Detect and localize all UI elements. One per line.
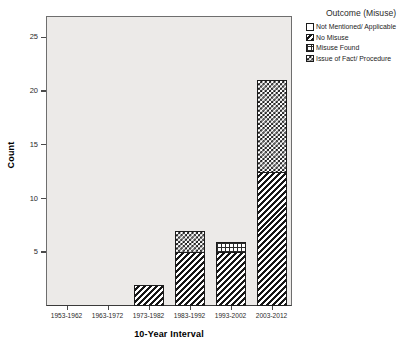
bar-segment[interactable] xyxy=(216,252,246,306)
y-axis-tick: 20 xyxy=(0,86,46,96)
bar-stack[interactable] xyxy=(216,242,246,306)
legend-title: Outcome (Misuse) xyxy=(306,8,416,18)
x-axis-tick-label: 2003-2012 xyxy=(256,312,288,319)
x-axis-tick-label: 1973-1982 xyxy=(133,312,165,319)
y-axis: Count 510152025 xyxy=(0,0,46,306)
bar-segment[interactable] xyxy=(134,285,164,306)
y-axis-tick: 10 xyxy=(0,194,46,204)
legend: Outcome (Misuse) Not Mentioned/ Applicab… xyxy=(306,8,416,64)
x-axis: 1953-19621963-19721973-19821983-19921993… xyxy=(46,306,292,326)
y-axis-tick: 25 xyxy=(0,32,46,42)
y-axis-tick-label: 5 xyxy=(34,247,38,257)
x-axis-tick-mark xyxy=(190,306,191,310)
legend-items: Not Mentioned/ ApplicableNo MisuseMisuse… xyxy=(306,22,416,63)
x-axis-title: 10-Year Interval xyxy=(46,329,292,339)
x-axis-tick-mark xyxy=(272,306,273,310)
legend-item[interactable]: Not Mentioned/ Applicable xyxy=(306,22,416,32)
legend-swatch-grid xyxy=(306,44,314,52)
legend-swatch-diagonal xyxy=(306,34,314,42)
x-axis-tick-label: 1963-1972 xyxy=(92,312,124,319)
bar-segment[interactable] xyxy=(216,242,246,253)
bar-stack[interactable] xyxy=(175,231,205,306)
x-axis-tick-mark xyxy=(108,306,109,310)
legend-item-label: Misuse Found xyxy=(316,43,359,53)
legend-item-label: Not Mentioned/ Applicable xyxy=(316,22,396,32)
y-axis-tick-label: 25 xyxy=(30,32,38,42)
x-axis-tick-mark xyxy=(67,306,68,310)
legend-item[interactable]: Issue of Fact/ Procedure xyxy=(306,54,416,64)
y-axis-tick: 5 xyxy=(0,247,46,257)
y-axis-tick: 15 xyxy=(0,140,46,150)
x-axis-tick-mark xyxy=(231,306,232,310)
bar-segment[interactable] xyxy=(257,80,287,171)
legend-item-label: Issue of Fact/ Procedure xyxy=(316,54,391,64)
bar-stack[interactable] xyxy=(134,285,164,306)
stacked-bar-chart: Count 510152025 1953-19621963-19721973-1… xyxy=(0,0,418,356)
bars-container xyxy=(46,16,292,306)
y-axis-tick-label: 20 xyxy=(30,86,38,96)
y-axis-tick-label: 15 xyxy=(30,140,38,150)
y-axis-title: Count xyxy=(6,120,16,190)
legend-item[interactable]: Misuse Found xyxy=(306,43,416,53)
legend-item-label: No Misuse xyxy=(316,33,349,43)
legend-swatch-blank xyxy=(306,23,314,31)
bar-segment[interactable] xyxy=(257,172,287,306)
legend-swatch-checker xyxy=(306,55,314,63)
x-axis-tick-label: 1953-1962 xyxy=(51,312,83,319)
legend-item[interactable]: No Misuse xyxy=(306,33,416,43)
bar-segment[interactable] xyxy=(175,231,205,252)
y-axis-tick-label: 10 xyxy=(30,194,38,204)
x-axis-tick-mark xyxy=(149,306,150,310)
x-axis-tick-label: 1983-1992 xyxy=(174,312,206,319)
x-axis-tick-label: 1993-2002 xyxy=(215,312,247,319)
bar-segment[interactable] xyxy=(175,252,205,306)
bar-stack[interactable] xyxy=(257,80,287,306)
